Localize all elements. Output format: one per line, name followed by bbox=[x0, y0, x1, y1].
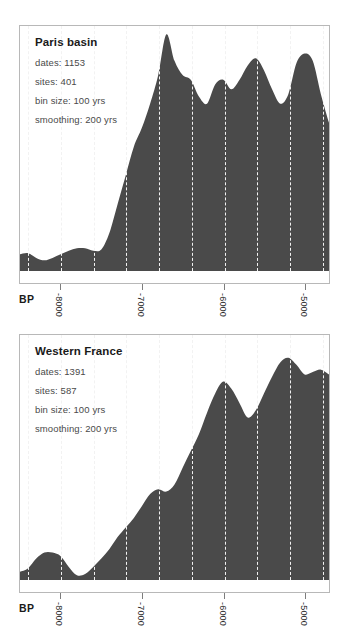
panel-title: Western France bbox=[35, 345, 122, 357]
meta-dates: dates: 1391 bbox=[35, 366, 122, 377]
x-tick-mark bbox=[305, 284, 306, 290]
meta-sites: sites: 587 bbox=[35, 385, 122, 396]
x-tick-label: -8000 bbox=[54, 293, 64, 317]
axis-label-bp: BP bbox=[19, 602, 34, 614]
x-tick-mark bbox=[142, 284, 143, 290]
meta-smoothing: smoothing: 200 yrs bbox=[35, 423, 122, 434]
x-tick-label: -5000 bbox=[299, 293, 309, 317]
meta-bin-size: bin size: 100 yrs bbox=[35, 404, 122, 415]
x-tick-label: -5000 bbox=[299, 602, 309, 626]
x-tick-mark bbox=[142, 593, 143, 599]
x-tick-mark bbox=[224, 284, 225, 290]
x-tick-label: -8000 bbox=[54, 602, 64, 626]
x-tick-mark bbox=[60, 593, 61, 599]
meta-block-paris-basin: Paris basin dates: 1153 sites: 401 bin s… bbox=[35, 36, 117, 133]
x-tick-label: -6000 bbox=[218, 602, 228, 626]
axis-label-bp: BP bbox=[19, 293, 34, 305]
x-tick-label: -7000 bbox=[136, 602, 146, 626]
x-tick-mark bbox=[60, 284, 61, 290]
meta-block-western-france: Western France dates: 1391 sites: 587 bi… bbox=[35, 345, 122, 442]
plot-area-paris-basin[interactable]: Paris basin dates: 1153 sites: 401 bin s… bbox=[19, 25, 330, 284]
panel-paris-basin: Paris basin dates: 1153 sites: 401 bin s… bbox=[19, 25, 330, 330]
x-axis-paris-basin: -8000-7000-6000-5000 BP bbox=[19, 284, 330, 330]
x-axis-western-france: -8000-7000-6000-5000 BP bbox=[19, 593, 330, 636]
meta-bin-size: bin size: 100 yrs bbox=[35, 95, 117, 106]
x-tick-mark bbox=[224, 593, 225, 599]
panel-western-france: Western France dates: 1391 sites: 587 bi… bbox=[19, 334, 330, 636]
meta-dates: dates: 1153 bbox=[35, 57, 117, 68]
x-tick-label: -7000 bbox=[136, 293, 146, 317]
meta-sites: sites: 401 bbox=[35, 76, 117, 87]
panel-title: Paris basin bbox=[35, 36, 117, 48]
plot-area-western-france[interactable]: Western France dates: 1391 sites: 587 bi… bbox=[19, 334, 330, 593]
meta-smoothing: smoothing: 200 yrs bbox=[35, 114, 117, 125]
x-tick-mark bbox=[305, 593, 306, 599]
x-tick-label: -6000 bbox=[218, 293, 228, 317]
